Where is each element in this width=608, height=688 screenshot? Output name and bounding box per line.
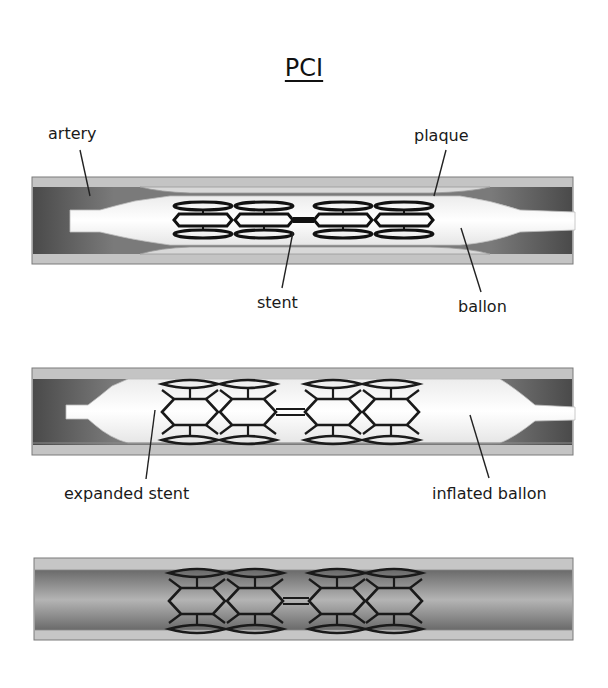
stent-label: stent [257,293,298,312]
plaque-label: plaque [414,126,469,145]
panel-1-artery [32,177,575,264]
balloon-label: ballon [458,297,507,316]
panel-2-artery [32,368,575,455]
inflated-balloon-label: inflated ballon [432,484,547,503]
pci-diagram [0,0,608,688]
panel-3-artery [34,558,573,640]
artery-label: artery [48,124,97,143]
expanded-stent-label: expanded stent [64,484,189,503]
